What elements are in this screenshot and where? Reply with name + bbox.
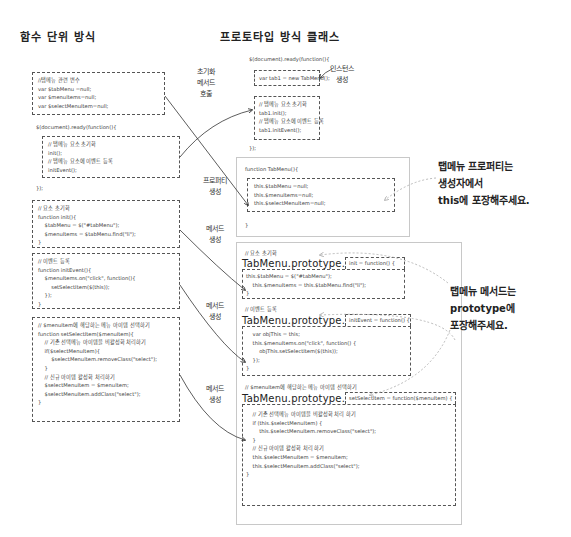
arrow-method-note-2 [320,314,455,340]
connector-arrows [0,0,571,537]
arrow-method-note-3 [370,330,450,395]
arrow-ready-to-call [180,110,252,157]
arrow-instance-label [320,69,332,78]
arrow-setselect-to-method [180,375,245,440]
arrow-vars-to-constructor [165,96,248,205]
arrow-method-note-1 [320,253,448,283]
arrow-init-to-method [180,230,245,290]
arrow-property-note [385,178,436,200]
arrow-initevent-to-method [180,285,245,362]
